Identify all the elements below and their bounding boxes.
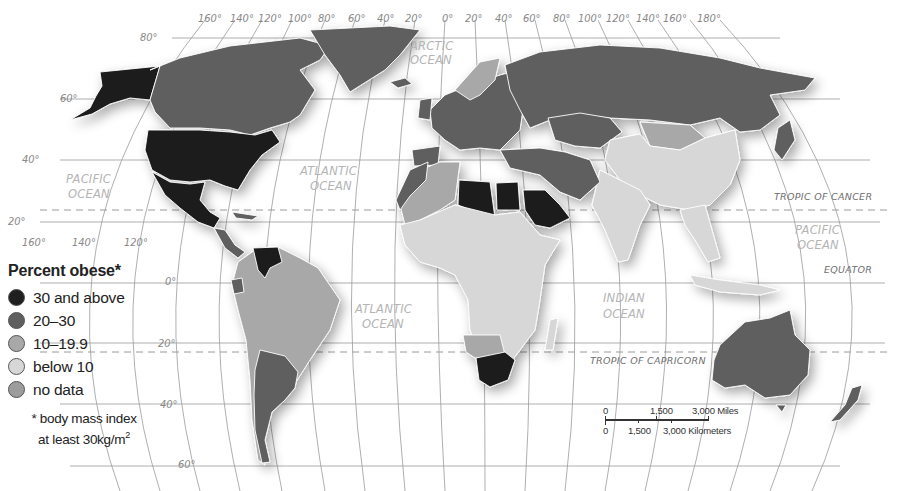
region-united-kingdom[interactable] <box>418 98 432 120</box>
svg-text:160°: 160° <box>663 12 687 25</box>
svg-text:160°: 160° <box>22 236 46 249</box>
label-pacific-west: PACIFIC <box>66 172 111 186</box>
svg-text:80°: 80° <box>553 12 571 25</box>
legend-label: 10–19.9 <box>33 335 88 353</box>
footnote-line-1: * body mass index <box>20 411 148 427</box>
region-caribbean[interactable] <box>232 212 258 220</box>
region-canada[interactable] <box>150 38 330 135</box>
svg-text:40°: 40° <box>22 153 40 166</box>
swatch-icon <box>8 335 25 352</box>
legend-item-no-data: no data <box>8 378 164 401</box>
svg-text:140°: 140° <box>72 236 96 249</box>
region-central-america[interactable] <box>214 228 245 258</box>
svg-text:100°: 100° <box>578 12 602 25</box>
region-alaska[interactable] <box>70 66 160 120</box>
legend-item-10-19-9: 10–19.9 <box>8 332 164 355</box>
svg-text:20°: 20° <box>465 12 483 25</box>
longitude-labels-bottom: 160° 140° 120° <box>22 236 148 249</box>
land-masses <box>70 26 862 465</box>
scale-km-0: 0 <box>603 425 608 436</box>
legend-label: no data <box>33 381 83 399</box>
scale-miles-1500: 1,500 <box>650 405 673 416</box>
swatch-icon <box>8 381 25 398</box>
scale-km-1500: 1,500 <box>628 425 651 436</box>
svg-text:120°: 120° <box>606 12 630 25</box>
svg-text:140°: 140° <box>230 12 254 25</box>
label-atlantic-north: ATLANTIC <box>299 164 357 178</box>
region-madagascar[interactable] <box>545 318 558 350</box>
label-atlantic-south: ATLANTIC <box>354 302 412 316</box>
label-indian-ocean: INDIAN <box>603 291 645 305</box>
region-southeast-asia[interactable] <box>680 205 720 262</box>
region-new-zealand[interactable] <box>830 385 862 422</box>
legend-item-below-10: below 10 <box>8 355 164 378</box>
legend-item-20-30: 20–30 <box>8 309 164 332</box>
svg-text:60°: 60° <box>348 12 366 25</box>
region-south-africa[interactable] <box>476 352 515 387</box>
longitude-labels-top: 160° 140° 120° 100° 80° 60° 40° 20° 0° 2… <box>198 12 721 25</box>
swatch-icon <box>8 289 25 306</box>
label-arctic-ocean-2: OCEAN <box>410 53 452 67</box>
region-argentina-chile[interactable] <box>254 350 298 463</box>
svg-text:80°: 80° <box>140 31 158 44</box>
legend-label: 20–30 <box>33 312 75 330</box>
svg-text:140°: 140° <box>636 12 660 25</box>
svg-text:0°: 0° <box>442 12 453 25</box>
legend-item-30-and-above: 30 and above <box>8 286 164 309</box>
legend: Percent obese* 30 and above 20–30 10–19.… <box>4 262 164 448</box>
legend-footnote: * body mass index at least 30kg/m2 <box>20 411 148 448</box>
svg-text:40°: 40° <box>495 12 513 25</box>
scale-miles-3000: 3,000 Miles <box>692 405 738 416</box>
svg-text:80°: 80° <box>318 12 336 25</box>
legend-title: Percent obese* <box>8 262 164 280</box>
label-arctic-ocean: ARCTIC <box>409 39 454 53</box>
label-tropic-of-capricorn: TROPIC OF CAPRICORN <box>590 355 706 366</box>
region-ecuador[interactable] <box>231 278 244 294</box>
svg-text:180°: 180° <box>697 12 721 25</box>
swatch-icon <box>8 358 25 375</box>
scale-bar: 0 1,500 3,000 Miles 0 1,500 3,000 Kilome… <box>600 405 790 445</box>
label-tropic-of-cancer: TROPIC OF CANCER <box>774 191 872 202</box>
region-south-america[interactable] <box>232 248 340 465</box>
legend-label: 30 and above <box>33 289 125 307</box>
svg-text:20°: 20° <box>8 215 26 228</box>
scale-km-3000: 3,000 Kilometers <box>663 425 731 436</box>
label-equator: EQUATOR <box>824 264 872 275</box>
footnote-line-2: at least 30kg/m2 <box>20 427 148 448</box>
scale-miles-0: 0 <box>603 405 608 416</box>
region-australia[interactable] <box>712 310 810 398</box>
legend-label: below 10 <box>33 358 93 376</box>
svg-text:120°: 120° <box>124 236 148 249</box>
label-pacific-west-2: OCEAN <box>68 187 110 201</box>
svg-text:0°: 0° <box>165 275 176 288</box>
svg-text:20°: 20° <box>405 12 423 25</box>
label-indian-ocean-2: OCEAN <box>603 307 645 321</box>
label-atlantic-north-2: OCEAN <box>310 179 352 193</box>
label-pacific-east-2: OCEAN <box>797 238 839 252</box>
region-iceland[interactable] <box>390 78 412 88</box>
swatch-icon <box>8 312 25 329</box>
svg-text:40°: 40° <box>377 12 395 25</box>
svg-text:160°: 160° <box>198 12 222 25</box>
svg-text:120°: 120° <box>258 12 282 25</box>
svg-text:60°: 60° <box>60 92 78 105</box>
region-japan[interactable] <box>774 120 795 160</box>
svg-text:100°: 100° <box>288 12 312 25</box>
svg-text:60°: 60° <box>178 458 196 471</box>
region-indonesia[interactable] <box>690 275 780 295</box>
region-egypt[interactable] <box>496 182 520 210</box>
label-atlantic-south-2: OCEAN <box>362 317 404 331</box>
svg-text:60°: 60° <box>523 12 541 25</box>
label-pacific-east: PACIFIC <box>795 223 840 237</box>
